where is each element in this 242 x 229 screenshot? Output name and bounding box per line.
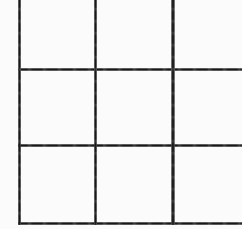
grid-cell-row1-col1 [21, 0, 94, 68]
grid-cell-row3-col3 [175, 147, 242, 222]
scanned-grid-image [0, 0, 242, 229]
vertical-line-3 [171, 0, 175, 225]
grid-cell-row3-col2 [97, 147, 171, 222]
grid-cell-row2-col2 [97, 71, 171, 144]
grid-cell-row1-col3 [175, 0, 242, 68]
vertical-line-1 [18, 0, 21, 225]
grid-cell-row3-col1 [21, 147, 94, 222]
vertical-line-2 [94, 0, 97, 225]
grid-cell-row2-col3 [175, 71, 242, 144]
horizontal-line-1 [18, 68, 242, 71]
horizontal-line-3 [18, 222, 242, 225]
horizontal-line-2 [18, 144, 242, 147]
grid-cell-row1-col2 [97, 0, 171, 68]
grid-cell-row2-col1 [21, 71, 94, 144]
